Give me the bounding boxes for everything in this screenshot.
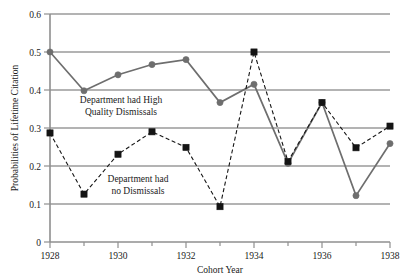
chart-container: 0.6 0.5 0.4 0.3 0.2 0.1 0 Probabilities … [0,0,401,278]
data-point-1930 [115,151,121,157]
data-point-1936 [319,99,325,105]
x-tick-label-1934: 1934 [245,251,264,261]
annotation-high-quality: Department had High Quality Dismissals [80,95,163,117]
annotation-no-dismissals-line2: no Dismissals [111,186,164,196]
y-tick-label-0.6: 0.6 [29,10,41,20]
annotation-no-dismissals: Department had no Dismissals [108,174,169,196]
y-tick-label-0.4: 0.4 [29,86,41,96]
data-point-1933 [217,99,223,105]
data-point-1932 [183,144,189,150]
y-tick-label-0.3: 0.3 [29,124,41,134]
data-point-1934 [251,81,257,87]
y-axis-title: Probabilities of Lifetime Citation [10,65,20,192]
data-point-1930 [115,72,121,78]
x-tick-label-1938: 1938 [381,251,400,261]
x-axis-title: Cohort Year [197,265,244,275]
series-no-dismissals [47,49,393,210]
data-point-1928 [47,49,53,55]
y-axis-ticks [44,14,50,242]
data-point-1929 [81,191,87,197]
series-line [50,52,390,207]
data-point-1932 [183,57,189,63]
y-tick-label-0.2: 0.2 [29,162,41,172]
x-tick-label-1932: 1932 [177,251,196,261]
series-layer [47,49,393,210]
y-tick-label-0: 0 [36,238,41,248]
x-tick-label-1936: 1936 [313,251,332,261]
data-point-1937 [353,145,359,151]
data-point-1938 [387,140,393,146]
line-chart: 0.6 0.5 0.4 0.3 0.2 0.1 0 Probabilities … [0,0,401,278]
annotation-no-dismissals-line1: Department had [108,174,169,184]
data-point-1934 [251,49,257,55]
y-tick-label-0.5: 0.5 [29,48,41,58]
annotation-high-quality-line1: Department had High [80,95,163,105]
annotation-high-quality-line2: Quality Dismissals [85,107,157,117]
data-point-1935 [285,158,291,164]
data-point-1938 [387,123,393,129]
x-tick-label-1928: 1928 [41,251,60,261]
data-point-1928 [47,130,53,136]
data-point-1931 [149,129,155,135]
data-point-1937 [353,193,359,199]
x-tick-label-1930: 1930 [109,251,128,261]
data-point-1933 [217,204,223,210]
data-point-1929 [81,88,87,94]
x-axis-ticks [50,242,390,248]
data-point-1931 [149,61,155,67]
y-tick-label-0.1: 0.1 [29,200,41,210]
